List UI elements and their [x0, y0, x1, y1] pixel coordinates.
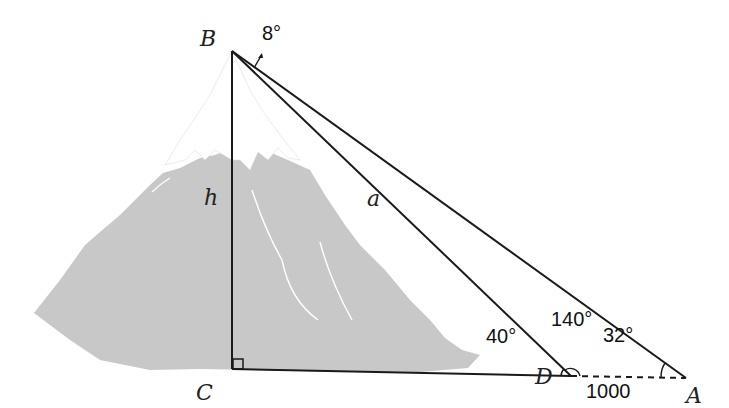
angle-arc-A-32	[661, 363, 665, 377]
segment-DA	[571, 376, 686, 378]
distance-label-DA: 1000	[586, 380, 631, 402]
angle-label-40: 40°	[486, 325, 516, 347]
segment-label-h: h	[204, 185, 218, 210]
point-label-A: A	[684, 383, 702, 408]
point-label-C: C	[196, 380, 213, 405]
mountain-triangle-diagram: B C D A h a 8° 40° 140° 32° 1000	[0, 0, 729, 408]
segment-label-a: a	[367, 186, 380, 211]
point-label-D: D	[534, 364, 553, 389]
angle-label-B: 8°	[262, 22, 281, 44]
arrow-head-icon	[258, 53, 263, 58]
snow-cap	[165, 51, 232, 165]
angle-label-140: 140°	[551, 308, 592, 330]
angle-label-32: 32°	[603, 324, 633, 346]
snow-cap-right	[232, 51, 300, 170]
point-label-B: B	[199, 26, 216, 51]
